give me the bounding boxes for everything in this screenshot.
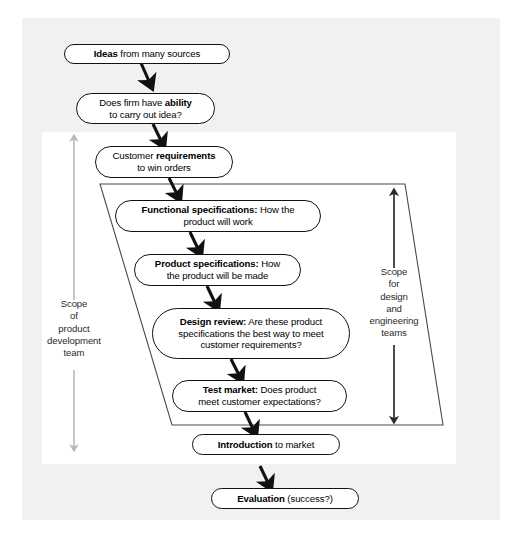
scope-label-line: Scope: [24, 298, 124, 310]
node-introduction[interactable]: Introduction to market: [192, 434, 340, 455]
scope-label-line: teams: [354, 327, 434, 339]
node-text: Evaluation (success?): [237, 493, 332, 505]
node-text: Test market: Does productmeet customer e…: [198, 384, 321, 407]
scope-label-line: engineering: [354, 315, 434, 327]
node-text: Introduction to market: [218, 439, 314, 451]
scope-label-line: team: [24, 347, 124, 359]
node-text-line: to win orders: [113, 162, 216, 174]
node-text-line: the product will be made: [155, 270, 280, 282]
diagram-page: Ideas from many sources Does firm have a…: [0, 0, 524, 539]
arrow-introduction-to-evaluation: [260, 466, 271, 489]
node-text-line: Introduction to market: [218, 439, 314, 451]
node-product-specifications[interactable]: Product specifications: Howthe product w…: [134, 254, 301, 286]
scope-label-line: development: [24, 335, 124, 347]
node-text: Does firm have abilityto carry out idea?: [99, 97, 192, 120]
scope-left-label: Scopeofproductdevelopmentteam: [24, 298, 124, 359]
scope-label-line: of: [24, 310, 124, 322]
node-text: Customer requirementsto win orders: [113, 150, 216, 173]
scope-label-line: for: [354, 278, 434, 290]
node-ability[interactable]: Does firm have abilityto carry out idea?: [76, 93, 215, 124]
node-design-review[interactable]: Design review: Are these productspecific…: [152, 308, 350, 359]
node-text-line: Test market: Does product: [198, 384, 321, 396]
scope-label-line: Scope: [354, 266, 434, 278]
node-ideas[interactable]: Ideas from many sources: [64, 44, 230, 64]
node-text-line: Customer requirements: [113, 150, 216, 162]
scope-label-line: product: [24, 323, 124, 335]
node-text-line: Product specifications: How: [155, 258, 280, 270]
arrow-ideas-to-ability: [141, 63, 152, 88]
node-text-line: to carry out idea?: [99, 109, 192, 121]
arrow-test-market-to-introduction: [245, 412, 256, 435]
node-text: Design review: Are these productspecific…: [178, 316, 323, 351]
node-evaluation[interactable]: Evaluation (success?): [211, 488, 359, 509]
node-test-market[interactable]: Test market: Does productmeet customer e…: [172, 380, 347, 412]
node-text-line: specifications the best way to meet: [178, 328, 323, 340]
arrow-ability-to-customer: [153, 124, 164, 147]
arrow-product-to-design-review: [207, 286, 218, 309]
arrow-functional-to-product: [190, 232, 201, 255]
node-text-line: meet customer expectations?: [198, 396, 321, 408]
node-text: Product specifications: Howthe product w…: [155, 258, 280, 281]
node-text: Functional specifications: How theproduc…: [142, 204, 295, 227]
scope-label-line: design: [354, 291, 434, 303]
arrow-customer-to-functional: [169, 178, 180, 200]
node-text-line: customer requirements?: [178, 339, 323, 351]
node-functional-specifications[interactable]: Functional specifications: How theproduc…: [115, 200, 321, 232]
node-text-line: Design review: Are these product: [178, 316, 323, 328]
node-text: Ideas from many sources: [94, 48, 200, 60]
node-text-line: Does firm have ability: [99, 97, 192, 109]
node-text-line: product will work: [142, 216, 295, 228]
node-customer-requirements[interactable]: Customer requirementsto win orders: [95, 146, 233, 178]
node-text-line: Ideas from many sources: [94, 48, 200, 60]
node-text-line: Functional specifications: How the: [142, 204, 295, 216]
arrow-design-review-to-test-market: [231, 359, 242, 381]
scope-right-label: Scopefordesignandengineeringteams: [354, 266, 434, 340]
node-text-line: Evaluation (success?): [237, 493, 332, 505]
scope-label-line: and: [354, 303, 434, 315]
